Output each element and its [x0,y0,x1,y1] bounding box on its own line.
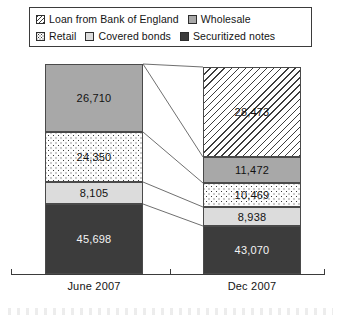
legend-swatch-dotted-icon [36,32,45,41]
legend-label-wholesale: Wholesale [201,14,251,25]
x-axis-tick-right [324,269,325,275]
connector-wholesale-top [143,64,203,157]
legend-entry-securitized-notes: Securitized notes [180,31,275,42]
legend-entry-loan-from-bank-of-england: Loan from Bank of England [36,14,179,25]
legend-entry-retail: Retail [36,31,76,42]
x-axis-tick-middle [170,269,171,275]
legend-label-retail: Retail [49,31,76,42]
segment-value-june-securitized-notes: 45,698 [77,233,112,245]
x-axis-label-june-2007: June 2007 [34,280,154,293]
segment-june-securitized-notes: 45,698 [45,204,143,274]
chart-legend: Loan from Bank of England Wholesale Reta… [29,7,312,47]
segment-value-dec-loan-from-bank-of-england: 28,473 [235,106,270,118]
segment-dec-wholesale: 11,472 [203,157,301,183]
segment-dec-securitized-notes: 43,070 [203,226,301,274]
legend-row-1: Loan from Bank of England Wholesale [36,11,311,28]
connector-bar-top [143,64,203,67]
connector-securitized-top [143,204,203,226]
segment-value-dec-wholesale: 11,472 [235,164,269,176]
x-axis-tick-left [11,269,12,275]
page-caption-cutoff-artifact [8,308,333,315]
legend-swatch-dark-icon [180,32,189,41]
segment-june-covered-bonds: 8,105 [45,182,143,204]
segment-dec-covered-bonds: 8,938 [203,207,301,226]
segment-dec-retail: 10,469 [203,183,301,207]
legend-row-2: Retail Covered bonds Securitized notes [36,28,311,45]
x-axis-label-dec-2007: Dec 2007 [192,280,312,293]
legend-label-securitized-notes: Securitized notes [193,31,275,42]
legend-swatch-medium-gray-icon [188,15,197,24]
x-axis-line [11,274,325,275]
legend-swatch-diagonal-hatch-icon [36,15,45,24]
segment-value-dec-covered-bonds: 8,938 [238,211,267,223]
legend-entry-covered-bonds: Covered bonds [85,31,171,42]
segment-value-june-covered-bonds: 8,105 [80,187,109,199]
connector-covered-top [143,182,203,207]
legend-label-covered-bonds: Covered bonds [98,31,171,42]
segment-value-june-wholesale: 26,710 [77,92,112,104]
legend-label-loan-from-bank-of-england: Loan from Bank of England [49,14,179,25]
segment-june-retail: 24,350 [45,132,143,182]
legend-entry-wholesale: Wholesale [188,14,251,25]
segment-value-june-retail: 24,350 [77,151,112,163]
connector-retail-top [143,132,203,183]
legend-swatch-light-gray-icon [85,32,94,41]
segment-value-dec-securitized-notes: 43,070 [235,244,270,256]
segment-dec-loan-from-bank-of-england: 28,473 [203,67,301,157]
plot-area: 26,710 24,350 8,105 45,698 28,473 11,472… [0,52,341,316]
segment-june-wholesale: 26,710 [45,64,143,132]
stacked-bar-chart-figure: Loan from Bank of England Wholesale Reta… [0,0,341,316]
segment-value-dec-retail: 10,469 [235,189,270,201]
